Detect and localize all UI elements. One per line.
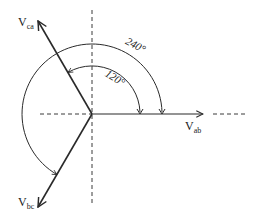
arc-120-degrees bbox=[68, 66, 140, 112]
label-240-degrees: 240° bbox=[124, 35, 149, 56]
phasor-diagram: 120° 240° Vca Vab Vbc bbox=[0, 0, 265, 224]
phasor-vca-arrow bbox=[38, 21, 92, 114]
label-vbc: Vbc bbox=[18, 195, 35, 211]
label-vab: Vab bbox=[185, 119, 201, 135]
phasor-vbc-arrow bbox=[38, 114, 92, 207]
label-120-degrees: 120° bbox=[103, 67, 128, 89]
label-vca: Vca bbox=[18, 15, 34, 31]
